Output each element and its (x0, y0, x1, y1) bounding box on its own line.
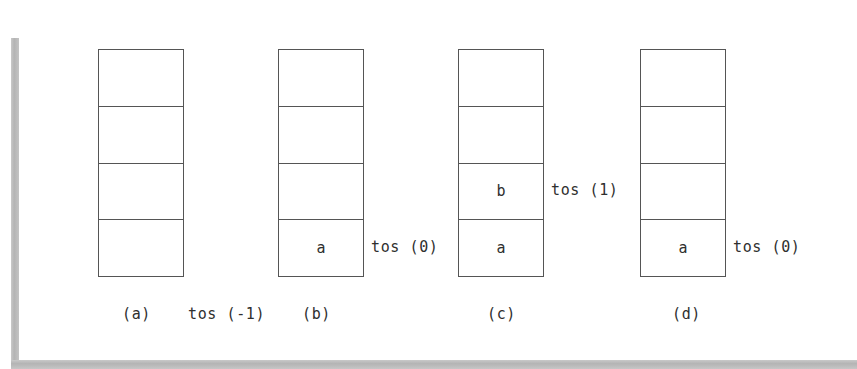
stack-b-tos-label: tos (0) (371, 238, 438, 256)
stack-a-cell-3 (99, 220, 183, 276)
stack-c-caption: (c) (487, 305, 516, 323)
stack-d-cell-1 (641, 107, 725, 164)
stack-d-cell-2 (641, 164, 725, 221)
stack-a-tos-label: tos (-1) (188, 305, 265, 323)
stack-b: a (278, 49, 364, 277)
stack-c-cell-1 (459, 107, 543, 164)
stack-a-cell-0 (99, 50, 183, 107)
stack-d-cell-3-value: a (678, 241, 687, 256)
stack-c-cell-2: b (459, 164, 543, 221)
stack-b-cell-3: a (279, 220, 363, 276)
stack-a-cell-1 (99, 107, 183, 164)
stack-b-cell-3-value: a (316, 241, 325, 256)
stack-c-cell-3: a (459, 220, 543, 276)
page-edge-rail-bottom (11, 360, 857, 369)
stack-a-caption: (a) (122, 305, 151, 323)
stack-c-cell-3-value: a (496, 241, 505, 256)
stack-c-cell-0 (459, 50, 543, 107)
page-edge-rail-left (11, 38, 19, 369)
stack-b-cell-1 (279, 107, 363, 164)
stack-c-cell-2-value: b (496, 184, 505, 199)
stack-d-tos-label: tos (0) (733, 238, 800, 256)
stack-b-cell-0 (279, 50, 363, 107)
stack-d-caption: (d) (672, 305, 701, 323)
stack-c: b a (458, 49, 544, 277)
stack-a-cell-2 (99, 164, 183, 221)
stack-diagram-figure: (a) tos (-1) a (b) tos (0) b a (c) to (0, 0, 857, 369)
stack-c-tos-label: tos (1) (551, 181, 618, 199)
stack-b-cell-2 (279, 164, 363, 221)
stack-d-cell-0 (641, 50, 725, 107)
stack-b-caption: (b) (302, 305, 331, 323)
stack-a (98, 49, 184, 277)
stack-d-cell-3: a (641, 220, 725, 276)
stack-d: a (640, 49, 726, 277)
